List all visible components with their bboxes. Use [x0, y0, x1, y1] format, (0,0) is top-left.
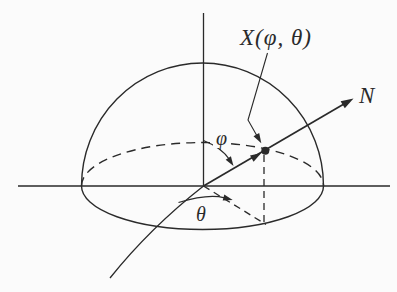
- surface-point-dot: [261, 147, 269, 155]
- leader-arrowhead-icon: [254, 133, 262, 143]
- normal-vector-label: N: [359, 84, 374, 107]
- dome-outline: [82, 63, 324, 186]
- theta-angle-label: θ: [196, 204, 206, 224]
- hemisphere-diagram: X(φ, θ) N φ θ: [0, 0, 397, 292]
- radius-projection-dashed-line: [204, 186, 267, 225]
- diagram-linework: [0, 0, 397, 292]
- phi-arrowhead-icon: [226, 156, 234, 166]
- theta-arrowhead-icon: [223, 194, 233, 200]
- radius-arrowhead-icon: [250, 153, 261, 162]
- normal-arrowhead-icon: [341, 98, 354, 108]
- point-label-leader-line: [248, 53, 268, 135]
- phi-angle-label: φ: [213, 128, 230, 148]
- equator-back-dashed-arc: [82, 143, 324, 187]
- point-label: X(φ, θ): [240, 26, 312, 49]
